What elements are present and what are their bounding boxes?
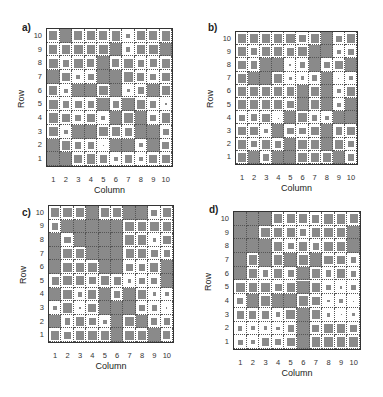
heatmap-cell	[259, 239, 272, 253]
heatmap-cell	[47, 29, 60, 43]
value-square	[138, 222, 146, 231]
value-square	[261, 296, 270, 305]
heatmap-cell	[160, 125, 173, 139]
value-square	[163, 222, 171, 231]
heatmap-cell	[74, 315, 86, 329]
heatmap-cell	[72, 111, 85, 125]
heatmap-cell	[147, 43, 160, 57]
value-square	[287, 338, 295, 347]
value-square	[150, 263, 158, 272]
x-tick-label: 10	[161, 351, 173, 360]
heatmap-cell	[284, 212, 297, 226]
value-square	[288, 325, 294, 331]
value-square	[337, 324, 346, 333]
heatmap-cell	[49, 301, 61, 315]
value-square	[298, 140, 306, 149]
heatmap-cell	[136, 220, 148, 234]
value-square	[49, 31, 57, 40]
value-square	[353, 301, 354, 302]
x-axis-label: Column	[81, 361, 141, 371]
value-square	[274, 255, 283, 264]
heatmap-cell	[335, 308, 348, 322]
heatmap-cell	[247, 281, 260, 295]
value-square	[287, 283, 295, 292]
value-square	[88, 290, 96, 299]
heatmap-cell	[347, 308, 360, 322]
value-square	[249, 311, 256, 319]
value-square	[52, 277, 59, 285]
value-square	[299, 296, 308, 305]
value-square	[99, 127, 108, 136]
heatmap-cell	[161, 301, 173, 315]
heatmap-cell	[72, 152, 85, 166]
value-square	[78, 292, 83, 297]
y-tick-label: 10	[219, 34, 231, 43]
heatmap-cell	[99, 315, 111, 329]
heatmap-cell	[335, 281, 348, 295]
value-square	[88, 142, 94, 148]
value-square	[75, 101, 82, 109]
heatmap-cell	[260, 151, 272, 164]
value-square	[238, 74, 246, 83]
value-square	[64, 237, 70, 244]
heatmap-cell	[272, 138, 284, 151]
value-square	[63, 290, 71, 299]
value-square	[138, 235, 146, 244]
heatmap-cell	[234, 335, 247, 349]
value-square	[337, 214, 346, 223]
heatmap-cell	[259, 226, 272, 240]
x-tick-label: 9	[147, 175, 159, 184]
heatmap-cell	[111, 315, 123, 329]
value-square	[298, 47, 306, 56]
value-square	[88, 304, 96, 313]
value-square	[164, 318, 170, 325]
heatmap-cell	[321, 151, 333, 164]
value-square	[150, 222, 158, 231]
heatmap-cell	[85, 139, 98, 153]
heatmap-cell	[99, 206, 111, 220]
heatmap-cell	[85, 111, 98, 125]
value-square	[276, 312, 281, 317]
heatmap-cell	[284, 335, 297, 349]
value-square	[162, 59, 171, 68]
value-square	[251, 48, 257, 55]
heatmap-cell	[72, 84, 85, 98]
y-tick-label: 9	[217, 228, 229, 237]
value-square	[336, 36, 342, 42]
value-square	[150, 115, 156, 121]
heatmap-cell	[234, 239, 247, 253]
value-square	[327, 313, 331, 317]
heatmap-cell	[248, 151, 260, 164]
value-square	[49, 113, 58, 122]
heatmap-cell	[122, 43, 135, 57]
heatmap-cell	[74, 301, 86, 315]
value-square	[163, 129, 169, 135]
heatmap-cell	[161, 206, 173, 220]
value-square	[103, 320, 107, 324]
heatmap-cell	[322, 322, 335, 336]
heatmap-cell	[260, 98, 272, 111]
heatmap-cell	[49, 260, 61, 274]
value-square	[289, 77, 292, 80]
heatmap-cell	[247, 267, 260, 281]
value-square	[163, 208, 171, 217]
heatmap-cell	[47, 84, 60, 98]
value-square	[326, 270, 332, 276]
heatmap-cell	[135, 43, 148, 57]
value-square	[74, 155, 82, 164]
value-square	[238, 87, 246, 96]
heatmap-grid	[235, 31, 358, 165]
heatmap-cell	[236, 124, 248, 137]
heatmap-cell	[47, 70, 60, 84]
value-square	[337, 242, 345, 251]
heatmap-cell	[136, 328, 148, 342]
heatmap-cell	[236, 32, 248, 45]
y-tick-label: 7	[32, 249, 44, 258]
heatmap-cell	[61, 301, 73, 315]
heatmap-cell	[234, 322, 247, 336]
value-square	[251, 326, 255, 330]
x-tick-label: 1	[47, 175, 59, 184]
value-square	[324, 214, 333, 223]
heatmap-cell	[284, 85, 296, 98]
x-tick-label: 8	[135, 175, 147, 184]
